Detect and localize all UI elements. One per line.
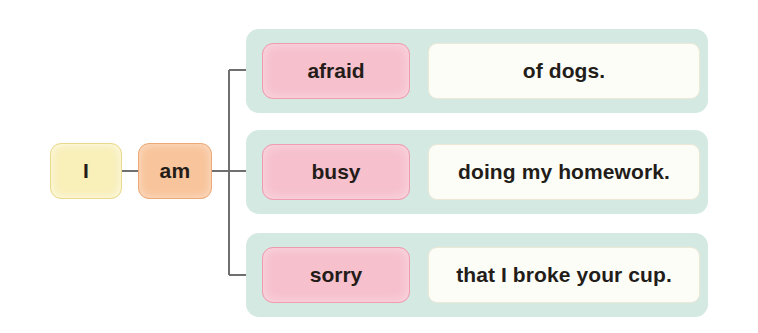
verb-label: am xyxy=(160,159,191,183)
adjective-box-1: afraid xyxy=(262,43,410,99)
complement-box-3: that I broke your cup. xyxy=(428,247,700,303)
complement-label-3: that I broke your cup. xyxy=(456,263,672,287)
complement-label-2: doing my homework. xyxy=(458,160,670,184)
subject-box: I xyxy=(50,143,122,199)
adjective-label-2: busy xyxy=(311,160,360,184)
adjective-box-2: busy xyxy=(262,144,410,200)
complement-box-1: of dogs. xyxy=(428,43,700,99)
adjective-label-1: afraid xyxy=(307,59,364,83)
verb-box: am xyxy=(138,143,212,199)
adjective-box-3: sorry xyxy=(262,247,410,303)
sentence-diagram: I am afraid of dogs. busy doing my homew… xyxy=(0,0,758,333)
subject-label: I xyxy=(83,159,89,183)
complement-label-1: of dogs. xyxy=(523,59,605,83)
complement-box-2: doing my homework. xyxy=(428,144,700,200)
adjective-label-3: sorry xyxy=(310,263,363,287)
